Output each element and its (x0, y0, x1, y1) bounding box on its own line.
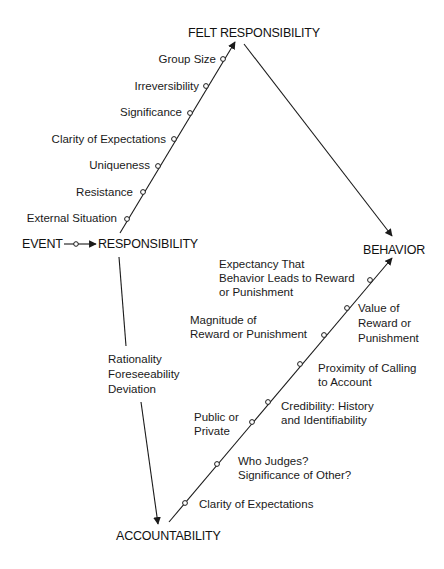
responsibility-factor-marker-1 (204, 84, 209, 89)
factor-value-line-2: Reward or (358, 316, 419, 331)
behavior-factor-marker-0 (368, 278, 373, 283)
factor-rationality: Rationality (108, 352, 180, 367)
factor-value-line-3: Punishment (358, 331, 419, 346)
factor-public: Public or Private (194, 410, 239, 438)
factor-foreseeability: Foreseeability (108, 367, 180, 382)
factor-clarity-of-expectations: Clarity of Expectations (52, 132, 166, 146)
factor-external-situation: External Situation (27, 211, 117, 225)
factor-who-judges: Who Judges? Significance of Other? (238, 454, 351, 482)
behavior-factor-marker-7 (183, 501, 188, 506)
node-accountability: ACCOUNTABILITY (116, 529, 221, 543)
factor-who-judges-line-2: Significance of Other? (238, 468, 351, 482)
responsibility-factor-marker-0 (221, 57, 226, 62)
factor-proximity: Proximity of Calling to Account (318, 361, 416, 389)
behavior-factor-marker-1 (345, 306, 350, 311)
node-felt-responsibility: FELT RESPONSIBILITY (188, 26, 320, 40)
factor-clarity-line-1: Clarity of Expectations (199, 497, 313, 511)
factor-expectancy-line-1: Expectancy That (219, 257, 355, 271)
arrow-felt-responsibility-to-behavior (244, 44, 392, 236)
responsibility-factor-marker-6 (125, 217, 130, 222)
factor-irreversibility: Irreversibility (134, 79, 199, 93)
factor-expectancy-line-2: Behavior Leads to Reward (219, 271, 355, 285)
factor-uniqueness: Uniqueness (89, 158, 150, 172)
behavior-factor-marker-5 (250, 420, 255, 425)
factor-magnitude-line-1: Magnitude of (190, 313, 307, 327)
factor-clarity-accountability: Clarity of Expectations (199, 497, 313, 511)
factor-proximity-line-2: to Account (318, 375, 416, 389)
factor-resistance: Resistance (76, 185, 133, 199)
node-behavior: BEHAVIOR (363, 243, 425, 257)
factor-proximity-line-1: Proximity of Calling (318, 361, 416, 375)
responsibility-factor-marker-5 (141, 190, 146, 195)
factor-credibility-line-1: Credibility: History (281, 399, 374, 413)
responsibility-factor-marker-3 (172, 137, 177, 142)
factor-public-line-2: Private (194, 424, 239, 438)
factor-magnitude-line-2: Reward or Punishment (190, 327, 307, 341)
event-node-circle (74, 242, 79, 247)
factor-expectancy: Expectancy That Behavior Leads to Reward… (219, 257, 355, 299)
factor-public-line-1: Public or (194, 410, 239, 424)
factor-who-judges-line-1: Who Judges? (238, 454, 351, 468)
factor-credibility: Credibility: History and Identifiability (281, 399, 374, 427)
link-factors: Rationality Foreseeability Deviation (108, 352, 180, 397)
factor-deviation: Deviation (108, 382, 180, 397)
factor-group-size: Group Size (158, 52, 216, 66)
responsibility-factor-marker-4 (156, 164, 161, 169)
behavior-factor-marker-2 (322, 333, 327, 338)
factor-value-line-1: Value of (358, 301, 419, 316)
factor-credibility-line-2: and Identifiability (281, 413, 374, 427)
factor-value: Value of Reward or Punishment (358, 301, 419, 346)
node-event: EVENT (22, 237, 63, 251)
factor-significance: Significance (120, 105, 182, 119)
arrow-responsibility-to-accountability-upper (119, 257, 126, 346)
node-responsibility: RESPONSIBILITY (98, 237, 198, 251)
behavior-factor-marker-6 (215, 462, 220, 467)
factor-expectancy-line-3: or Punishment (219, 285, 355, 299)
factor-magnitude: Magnitude of Reward or Punishment (190, 313, 307, 341)
arrow-responsibility-to-accountability (141, 402, 158, 524)
behavior-factor-marker-4 (266, 400, 271, 405)
responsibility-factor-marker-2 (188, 111, 193, 116)
behavior-factor-marker-3 (298, 362, 303, 367)
